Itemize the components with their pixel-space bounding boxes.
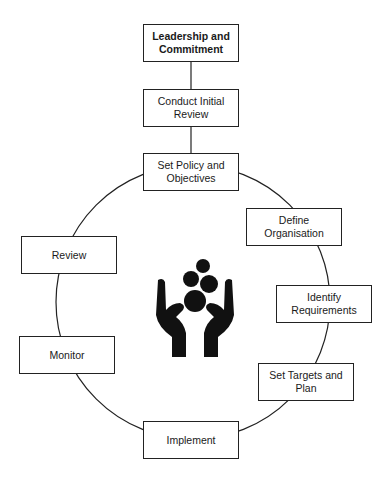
step-label: Set Targets and Plan <box>259 369 353 395</box>
step-define-organisation: Define Organisation <box>246 208 342 246</box>
step-implement: Implement <box>143 421 239 459</box>
step-conduct-initial-review: Conduct Initial Review <box>143 89 239 127</box>
step-label: Set Policy and Objectives <box>144 159 238 185</box>
step-monitor: Monitor <box>19 336 115 374</box>
step-label: Identify Requirements <box>277 291 371 317</box>
step-label: Leadership and Commitment <box>144 30 238 56</box>
step-identify-requirements: Identify Requirements <box>276 285 372 323</box>
step-label: Define Organisation <box>247 214 341 240</box>
step-label: Implement <box>164 434 217 447</box>
step-label: Conduct Initial Review <box>144 95 238 121</box>
step-review: Review <box>21 236 117 274</box>
hands-holding-circles-icon <box>150 255 240 360</box>
step-leadership-commitment: Leadership and Commitment <box>143 24 239 62</box>
step-label: Review <box>50 249 88 262</box>
step-label: Monitor <box>47 349 86 362</box>
step-set-targets-plan: Set Targets and Plan <box>258 363 354 401</box>
step-set-policy-objectives: Set Policy and Objectives <box>143 153 239 191</box>
